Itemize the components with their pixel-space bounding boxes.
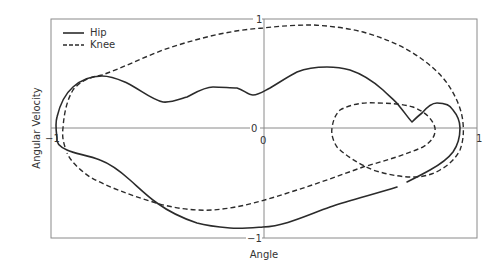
y-tick-max: 1 (256, 14, 262, 25)
hip-curve (56, 67, 460, 228)
phase-plot: 1 0 −1 −1 0 1 Angle Angular Velocity Hip… (0, 0, 502, 279)
x-tick-zero: 0 (260, 135, 266, 146)
knee-curve (63, 25, 464, 210)
x-tick-max: 1 (476, 133, 482, 144)
x-axis-title: Angle (250, 249, 278, 260)
y-axis-title: Angular Velocity (31, 87, 42, 168)
legend-knee-label: Knee (90, 39, 115, 50)
y-tick-zero: 0 (251, 123, 257, 134)
legend-hip-label: Hip (90, 27, 107, 38)
y-tick-min: −1 (247, 233, 262, 244)
legend: Hip Knee (63, 27, 115, 50)
